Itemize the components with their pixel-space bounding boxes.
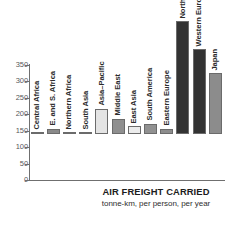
bar-label: Western Europe <box>195 0 203 46</box>
chart-subtitle: tonne-km, per person, per year <box>85 199 227 208</box>
bar <box>31 132 44 134</box>
bar-label: South Asia <box>82 91 90 130</box>
bar-label: Eastern Europe <box>163 71 171 126</box>
bar <box>47 129 60 134</box>
bar <box>128 126 141 134</box>
bar <box>160 129 173 134</box>
bar <box>144 124 157 134</box>
bar <box>176 21 189 134</box>
y-axis-tick-mark <box>25 81 29 82</box>
y-axis-tick-mark <box>25 65 29 66</box>
y-axis-tick-mark <box>25 147 29 148</box>
bar-chart: 050100150200250300350 Central AfricaE. a… <box>0 0 237 228</box>
bar-label: Northern Africa <box>66 75 74 130</box>
bar <box>209 73 222 134</box>
bar-label: East Asia <box>131 90 139 123</box>
bar <box>95 109 108 134</box>
bar-label: Asia–Pacific <box>98 62 106 106</box>
bar-series: Central AfricaE. and S. AfricaNorthern A… <box>30 0 225 181</box>
bar <box>112 119 125 134</box>
chart-page: 050100150200250300350 Central AfricaE. a… <box>0 0 237 228</box>
y-axis-tick-mark <box>25 114 29 115</box>
y-axis-tick-mark <box>25 98 29 99</box>
bar <box>63 132 76 134</box>
bar-label: Japan <box>212 49 220 71</box>
bar-label: Middle East <box>114 74 122 116</box>
y-axis-tick-mark <box>25 180 29 181</box>
y-axis-tick-mark <box>25 164 29 165</box>
bar-label: Central Africa <box>33 81 41 130</box>
bar-label: North America <box>179 0 187 18</box>
bar-label: South America <box>147 68 155 121</box>
y-axis-tick-mark <box>25 131 29 132</box>
bar-label: E. and S. Africa <box>50 71 58 126</box>
bar <box>193 49 206 134</box>
bar <box>79 132 92 134</box>
chart-title: AIR FREIGHT CARRIED <box>85 186 227 197</box>
